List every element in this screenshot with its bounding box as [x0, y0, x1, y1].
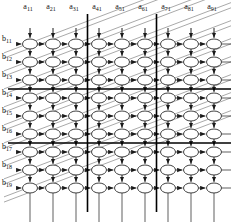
- row-input-label-8: b18: [2, 161, 12, 170]
- processing-element: [138, 129, 153, 139]
- processing-element: [138, 147, 153, 157]
- processing-element: [69, 183, 84, 193]
- processing-element: [23, 93, 38, 103]
- processing-element: [138, 75, 153, 85]
- processing-element: [23, 165, 38, 175]
- processing-element: [161, 39, 176, 49]
- diagram-canvas: a11a21a31a41a51a61a71a81a91b11b12b13b14b…: [0, 0, 231, 222]
- processing-element: [46, 93, 61, 103]
- row-input-label-7: b17: [2, 143, 12, 152]
- processing-element: [161, 57, 176, 67]
- processing-element: [92, 57, 107, 67]
- processing-element: [46, 75, 61, 85]
- processing-element: [46, 183, 61, 193]
- processing-element: [69, 93, 84, 103]
- processing-element: [23, 57, 38, 67]
- processing-element: [92, 183, 107, 193]
- processing-element: [46, 39, 61, 49]
- processing-element: [23, 183, 38, 193]
- row-input-label-1: b11: [2, 35, 12, 44]
- label-subscript: 81: [188, 6, 194, 12]
- processing-element: [184, 75, 199, 85]
- processing-element: [161, 147, 176, 157]
- label-subscript: 61: [142, 6, 148, 12]
- processing-element: [207, 165, 222, 175]
- label-subscript: 11: [6, 38, 12, 44]
- processing-element: [184, 183, 199, 193]
- processing-element: [207, 129, 222, 139]
- processing-element: [69, 57, 84, 67]
- label-subscript: 13: [6, 74, 12, 80]
- processing-element: [46, 129, 61, 139]
- processing-element: [184, 147, 199, 157]
- processing-element: [69, 147, 84, 157]
- processing-element: [92, 165, 107, 175]
- processing-element: [161, 93, 176, 103]
- processing-element: [207, 111, 222, 121]
- column-input-label-8: a81: [184, 3, 194, 12]
- processing-element: [161, 183, 176, 193]
- processing-element: [138, 57, 153, 67]
- column-input-label-3: a31: [69, 3, 79, 12]
- processing-element: [115, 57, 130, 67]
- processing-element: [92, 75, 107, 85]
- label-subscript: 51: [119, 6, 125, 12]
- label-subscript: 19: [6, 182, 12, 188]
- processing-element: [207, 183, 222, 193]
- processing-element: [69, 39, 84, 49]
- column-input-label-6: a61: [138, 3, 148, 12]
- label-subscript: 71: [165, 6, 171, 12]
- processing-element: [184, 129, 199, 139]
- processing-element: [138, 183, 153, 193]
- processing-element: [69, 129, 84, 139]
- processing-element: [161, 165, 176, 175]
- processing-element: [115, 183, 130, 193]
- processing-element: [23, 129, 38, 139]
- label-subscript: 12: [6, 56, 12, 62]
- row-input-label-6: b16: [2, 125, 12, 134]
- processing-element: [184, 165, 199, 175]
- row-input-label-2: b12: [2, 53, 12, 62]
- processing-element: [138, 111, 153, 121]
- processing-element: [23, 39, 38, 49]
- label-subscript: 15: [6, 110, 12, 116]
- processing-element: [115, 147, 130, 157]
- processing-element: [207, 93, 222, 103]
- processing-element: [161, 111, 176, 121]
- label-subscript: 11: [27, 6, 33, 12]
- processing-element: [207, 57, 222, 67]
- label-subscript: 21: [50, 6, 56, 12]
- row-input-label-4: b14: [2, 89, 12, 98]
- processing-element: [184, 93, 199, 103]
- label-subscript: 41: [96, 6, 102, 12]
- label-subscript: 18: [6, 164, 12, 170]
- processing-element: [138, 93, 153, 103]
- processing-element: [207, 147, 222, 157]
- column-input-label-2: a21: [46, 3, 56, 12]
- processing-element: [92, 39, 107, 49]
- label-subscript: 17: [6, 146, 12, 152]
- processing-element: [184, 57, 199, 67]
- processing-element: [92, 147, 107, 157]
- processing-element: [115, 129, 130, 139]
- processing-element: [115, 93, 130, 103]
- processing-element: [115, 75, 130, 85]
- processing-element: [46, 57, 61, 67]
- processing-element: [46, 165, 61, 175]
- column-input-label-9: a91: [207, 3, 217, 12]
- processing-element: [138, 165, 153, 175]
- processing-element: [92, 111, 107, 121]
- processing-element: [69, 111, 84, 121]
- row-input-label-9: b19: [2, 179, 12, 188]
- row-input-label-5: b15: [2, 107, 12, 116]
- processing-element: [23, 147, 38, 157]
- processing-element: [184, 111, 199, 121]
- row-input-label-3: b13: [2, 71, 12, 80]
- processing-element: [69, 75, 84, 85]
- label-subscript: 16: [6, 128, 12, 134]
- column-input-label-5: a51: [115, 3, 125, 12]
- processing-element: [46, 147, 61, 157]
- processing-element: [23, 111, 38, 121]
- processing-element: [92, 129, 107, 139]
- processing-element: [69, 165, 84, 175]
